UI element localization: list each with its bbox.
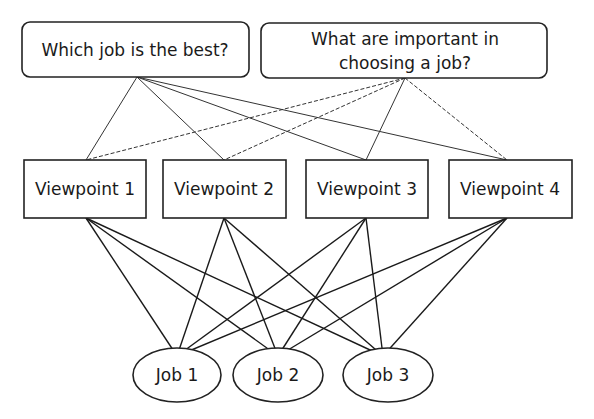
job-2-label: Job 2 bbox=[256, 365, 299, 385]
question-1-label: Which job is the best? bbox=[41, 40, 228, 60]
diagram-canvas: Which job is the best? What are importan… bbox=[0, 0, 594, 419]
viewpoint-3-label: Viewpoint 3 bbox=[317, 179, 417, 199]
question-2-line2: choosing a job? bbox=[339, 53, 471, 73]
viewpoint-node-1: Viewpoint 1 bbox=[24, 160, 146, 218]
edge-v4-j3 bbox=[383, 218, 507, 356]
edges-viewpoints-jobs bbox=[86, 218, 507, 356]
edge-q2-v4 bbox=[405, 78, 507, 160]
job-node-2: Job 2 bbox=[233, 348, 323, 402]
viewpoint-node-2: Viewpoint 2 bbox=[163, 160, 286, 218]
edge-v2-j3 bbox=[224, 218, 383, 356]
edges-question2 bbox=[86, 78, 507, 160]
viewpoint-node-3: Viewpoint 3 bbox=[306, 160, 428, 218]
question-node-2: What are important in choosing a job? bbox=[261, 23, 547, 78]
edge-v2-j2 bbox=[224, 218, 278, 356]
edge-q1-v4 bbox=[137, 77, 507, 160]
job-3-label: Job 3 bbox=[366, 365, 409, 385]
viewpoint-1-label: Viewpoint 1 bbox=[35, 179, 135, 199]
edge-v4-j1 bbox=[177, 218, 507, 356]
edge-q2-v2 bbox=[224, 78, 405, 160]
viewpoint-4-label: Viewpoint 4 bbox=[460, 179, 560, 199]
edge-v4-j2 bbox=[278, 218, 507, 356]
job-node-3: Job 3 bbox=[343, 348, 433, 402]
edges-question1 bbox=[86, 77, 507, 160]
edge-q1-v2 bbox=[137, 77, 224, 160]
job-1-label: Job 1 bbox=[155, 365, 198, 385]
viewpoint-2-label: Viewpoint 2 bbox=[174, 179, 274, 199]
edge-q2-v3 bbox=[366, 78, 405, 160]
edge-v3-j2 bbox=[278, 218, 366, 356]
edge-q2-v1 bbox=[86, 78, 405, 160]
edge-v2-j1 bbox=[177, 218, 224, 356]
edge-v3-j3 bbox=[366, 218, 383, 356]
viewpoint-node-4: Viewpoint 4 bbox=[449, 160, 572, 218]
edge-q1-v1 bbox=[86, 77, 137, 160]
job-node-1: Job 1 bbox=[133, 348, 221, 402]
question-2-line1: What are important in bbox=[311, 29, 499, 49]
edge-v1-j2 bbox=[86, 218, 278, 356]
question-node-1: Which job is the best? bbox=[22, 22, 249, 77]
